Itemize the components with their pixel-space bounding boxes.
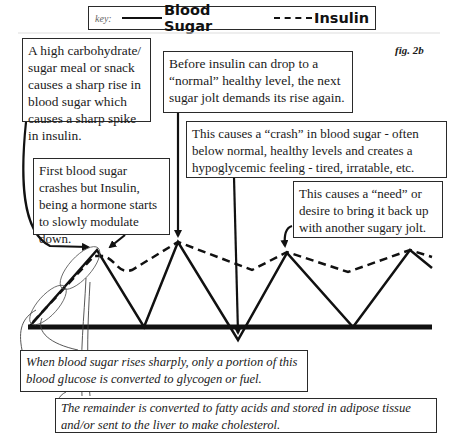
annotation-crash: This causes a “crash” in blood sugar - o…: [186, 121, 447, 178]
annotation-remainder: The remainder is converted to fatty acid…: [55, 398, 437, 433]
figure-label: fig. 2b: [395, 44, 424, 56]
annotation-need: This causes a “need” or desire to bring …: [293, 181, 443, 238]
annotation-before-insulin-drop: Before insulin can drop to a “normal” he…: [163, 51, 353, 113]
annotation-carb-meal: A high carbohydrate/ sugar meal or snack…: [22, 38, 151, 122]
annotation-first-crash: First blood sugar crashes but Insulin, b…: [33, 158, 170, 235]
annotation-portion-converted: When blood sugar rises sharply, only a p…: [20, 350, 308, 392]
